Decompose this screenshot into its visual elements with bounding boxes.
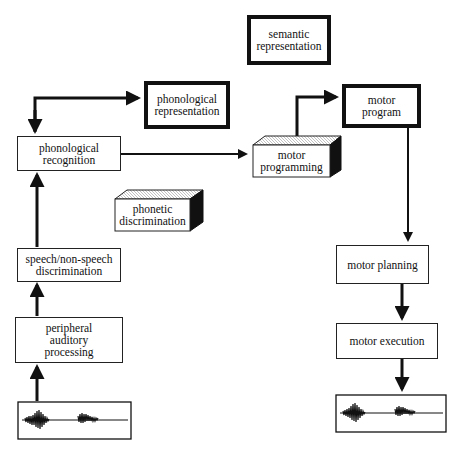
semantic-representation-node: semantic representation <box>247 15 331 65</box>
arrow-motor-programming-to-program <box>297 97 336 140</box>
speech-nonspeech-discrimination-node: speech/non-speech discrimination <box>17 248 121 282</box>
phonological-recognition-node: phonological recognition <box>17 136 121 171</box>
diagram-connectors <box>0 0 461 454</box>
phonetic-discrimination-node: phonetic discrimination <box>115 199 190 231</box>
peripheral-auditory-processing-node: peripheral auditory processing <box>15 317 123 363</box>
phonological-representation-node: phonological representation <box>144 81 230 129</box>
speech-waveform-input <box>18 402 131 439</box>
motor-programming-node: motor programming <box>253 145 330 177</box>
motor-execution-node: motor execution <box>336 323 438 359</box>
arrow-recognition-to-representation <box>35 98 138 132</box>
motor-program-node: motor program <box>342 84 421 128</box>
motor-planning-node: motor planning <box>336 245 429 284</box>
speech-waveform-output <box>336 395 446 432</box>
